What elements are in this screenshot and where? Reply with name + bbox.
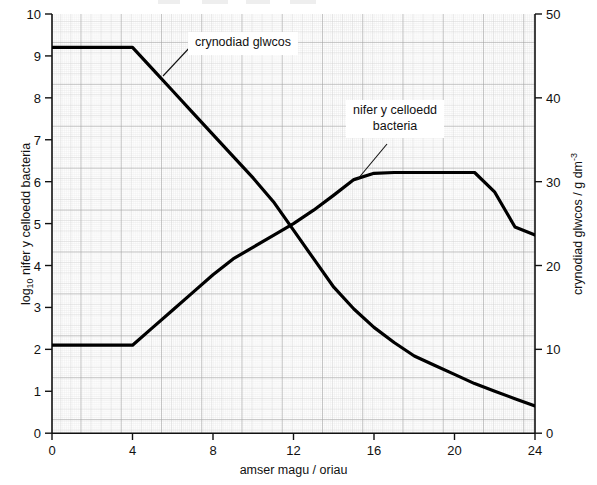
y2-axis-title-main: crynodiad glwcos / g dm (571, 161, 585, 295)
y2-tick-50: 50 (546, 8, 560, 21)
y2-tick-40: 40 (546, 91, 560, 104)
y-tick-7: 7 (34, 133, 41, 146)
y2-axis-title-superscript: -3 (569, 153, 579, 161)
y2-tick-0: 0 (546, 427, 553, 440)
callout-nifer-y-celloedd-bacteria: nifer y celloedd bacteria (346, 100, 444, 138)
y-tick-2: 2 (34, 343, 41, 356)
bottom-axis-ticks (52, 433, 535, 440)
y2-tick-30: 30 (546, 175, 560, 188)
y-axis-title: log10 nifer y celloedd bacteria (20, 142, 34, 304)
y-axis-title-subscript: 10 (25, 278, 35, 288)
x-axis-title: amser magu / oriau (240, 464, 348, 478)
y-tick-6: 6 (34, 175, 41, 188)
x-tick-16: 16 (367, 444, 381, 457)
y-tick-3: 3 (34, 301, 41, 314)
callout-crynodiad-glwcos: crynodiad glwcos (188, 32, 298, 55)
y-tick-4: 4 (34, 259, 41, 272)
x-tick-24: 24 (528, 444, 542, 457)
y-tick-8: 8 (34, 91, 41, 104)
x-tick-20: 20 (447, 444, 461, 457)
callout-glucose-line1: crynodiad glwcos (195, 35, 291, 51)
y2-axis-title: crynodiad glwcos / g dm-3 (572, 153, 586, 295)
right-axis-ticks (535, 14, 542, 433)
y-tick-0: 0 (34, 427, 41, 440)
x-tick-8: 8 (209, 444, 216, 457)
y2-tick-20: 20 (546, 259, 560, 272)
y-tick-5: 5 (34, 217, 41, 230)
callout-bacteria-line1: nifer y celloedd (353, 103, 437, 119)
y2-tick-10: 10 (546, 343, 560, 356)
left-axis-ticks (45, 14, 52, 433)
y-tick-9: 9 (34, 49, 41, 62)
x-tick-4: 4 (129, 444, 136, 457)
y-tick-1: 1 (34, 385, 41, 398)
y-axis-title-prefix: log (19, 288, 33, 305)
chart-plot-area (0, 0, 597, 485)
y-axis-title-rest: nifer y celloedd bacteria (19, 142, 33, 278)
chart-figure: 10 9 8 7 6 5 4 3 2 1 0 50 40 30 20 10 0 … (0, 0, 597, 485)
x-tick-0: 0 (48, 444, 55, 457)
y-tick-10: 10 (27, 8, 41, 21)
callout-bacteria-line2: bacteria (353, 119, 437, 135)
x-tick-12: 12 (286, 444, 300, 457)
